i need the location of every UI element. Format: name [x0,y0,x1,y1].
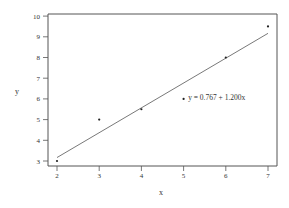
y-tick-label: 8 [37,54,41,62]
y-axis-label: y [15,87,19,96]
y-tick-label: 4 [37,137,41,145]
x-tick-label: 2 [55,172,59,180]
x-tick-label: 6 [224,172,228,180]
x-axis-label: x [159,188,163,197]
x-axis: 234567 [55,166,270,180]
plot-frame [48,14,277,166]
x-tick-label: 5 [182,172,186,180]
y-tick-label: 9 [37,33,41,41]
data-point [225,56,227,58]
y-axis: 345678910 [33,13,48,166]
data-point [98,119,100,121]
y-tick-label: 3 [37,158,41,166]
x-tick-label: 7 [266,172,270,180]
x-tick-label: 3 [97,172,101,180]
data-point [56,160,58,162]
scatter-chart: 345678910 234567 y = 0.767 + 1.200x x y [0,0,289,208]
equation-annotation: y = 0.767 + 1.200x [188,93,245,102]
y-tick-label: 6 [37,95,41,103]
x-tick-label: 4 [140,172,144,180]
y-tick-label: 5 [37,116,41,124]
y-tick-label: 7 [37,75,41,83]
data-point [267,25,269,27]
data-point [183,98,185,100]
data-point [140,108,142,110]
y-tick-label: 10 [33,13,41,21]
